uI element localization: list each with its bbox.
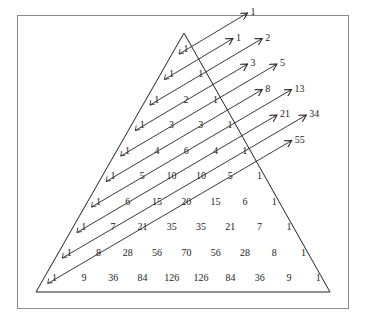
pascal-entry: 1	[140, 119, 145, 130]
diagonal-arrows	[48, 13, 307, 283]
fibonacci-sum: 1	[236, 32, 241, 43]
pascal-entry: 7	[111, 221, 116, 232]
diagonal-arrow	[48, 141, 292, 284]
pascal-entry: 4	[154, 145, 159, 156]
pascal-entry: 1	[169, 68, 174, 79]
fibonacci-sum: 21	[280, 108, 290, 119]
pascal-entry: 9	[287, 272, 292, 283]
triangle-numbers: 1111211331146411510105116152015611721353…	[52, 43, 321, 284]
pascal-entry: 6	[125, 196, 130, 207]
fibonacci-sum: 34	[309, 108, 319, 119]
pascal-entry: 1	[154, 94, 159, 105]
pascal-entry: 5	[140, 170, 145, 181]
pascal-entry: 28	[123, 247, 133, 258]
fibonacci-sum: 5	[280, 57, 285, 68]
pascal-entry: 10	[196, 170, 206, 181]
pascal-entry: 1	[316, 272, 321, 283]
fibonacci-sum: 3	[251, 57, 256, 68]
fibonacci-sum: 2	[265, 32, 270, 43]
pascal-entry: 3	[169, 119, 174, 130]
pascal-entry: 1	[242, 145, 247, 156]
fibonacci-sum: 1	[251, 6, 256, 17]
pascal-entry: 1	[286, 221, 291, 232]
pascal-entry: 36	[108, 272, 118, 283]
pascal-entry: 2	[184, 94, 189, 105]
diagonal-arrow	[91, 90, 291, 207]
pascal-entry: 1	[184, 43, 189, 54]
pascal-entry: 7	[257, 221, 262, 232]
pascal-entry: 21	[225, 221, 235, 232]
pascal-entry: 126	[164, 272, 179, 283]
pascal-entry: 21	[137, 221, 147, 232]
pascal-entry: 35	[196, 221, 206, 232]
pascal-entry: 6	[242, 196, 247, 207]
pascal-entry: 10	[167, 170, 177, 181]
diagonal-arrow	[150, 39, 262, 105]
pascal-entry: 15	[152, 196, 162, 207]
pascal-entry: 84	[138, 272, 148, 283]
pascal-entry: 1	[52, 272, 57, 283]
diagonal-arrow	[77, 115, 277, 232]
pascal-entry: 1	[125, 145, 130, 156]
pascal-entry: 9	[81, 272, 86, 283]
pascal-entry: 56	[152, 247, 162, 258]
pascal-entry: 6	[184, 145, 189, 156]
fibonacci-sums: 11235813213455	[236, 6, 319, 145]
pascal-entry: 4	[213, 145, 218, 156]
pascal-entry: 1	[81, 221, 86, 232]
pascal-entry: 5	[228, 170, 233, 181]
pascal-entry: 35	[167, 221, 177, 232]
pascal-entry: 3	[198, 119, 203, 130]
pascal-entry: 70	[181, 247, 191, 258]
diagonal-arrow	[62, 115, 306, 258]
pascal-entry: 1	[96, 196, 101, 207]
pascal-entry: 8	[272, 247, 277, 258]
pascal-entry: 8	[96, 247, 101, 258]
pascal-entry: 36	[255, 272, 265, 283]
pascal-entry: 20	[181, 196, 191, 207]
pascal-entry: 1	[301, 247, 306, 258]
pascal-triangle-diagram: 1111211331146411510105116152015611721353…	[0, 0, 366, 325]
pascal-entry: 1	[272, 196, 277, 207]
pascal-entry: 1	[257, 170, 262, 181]
pascal-entry: 56	[211, 247, 221, 258]
fibonacci-sum: 8	[265, 83, 270, 94]
pascal-entry: 1	[198, 68, 203, 79]
pascal-entry: 1	[67, 247, 72, 258]
pascal-entry: 1	[213, 94, 218, 105]
pascal-entry: 15	[211, 196, 221, 207]
pascal-entry: 1	[111, 170, 116, 181]
pascal-entry: 28	[240, 247, 250, 258]
pascal-entry: 1	[228, 119, 233, 130]
pascal-entry: 84	[225, 272, 235, 283]
fibonacci-sum: 13	[295, 83, 305, 94]
pascal-entry: 126	[194, 272, 209, 283]
fibonacci-sum: 55	[295, 134, 305, 145]
